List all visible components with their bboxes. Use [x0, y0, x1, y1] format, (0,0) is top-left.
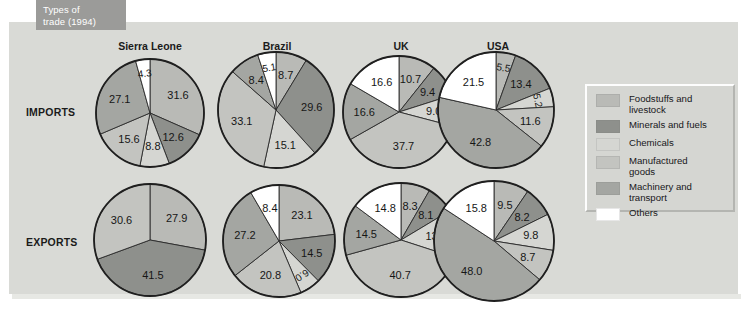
pie-slice-value-label: 8.8: [145, 140, 160, 152]
legend-swatch-foodstuffs: [596, 94, 620, 107]
pie-slice-value-label: 27.1: [109, 93, 130, 105]
legend-label-others: Others: [629, 207, 658, 218]
pie-slice-value-label: 21.5: [463, 76, 484, 88]
legend-label-manufactured: Manufactured goods: [629, 155, 688, 177]
pie-slice-value-label: 33.1: [231, 115, 252, 127]
legend-swatch-minerals: [596, 120, 620, 133]
legend-swatch-chemicals: [596, 138, 620, 151]
pie-slice-value-label: 8.4: [262, 202, 277, 214]
pie-slice-value-label: 31.6: [167, 89, 188, 101]
legend-label-machinery: Machinery and transport: [629, 181, 692, 203]
pie-slice-value-label: 27.2: [234, 229, 255, 241]
pie-slice-value-label: 4.3: [137, 67, 153, 80]
pie-slice-value-label: 14.8: [374, 202, 395, 214]
legend-label-foodstuffs: Foodstuffs and livestock: [629, 93, 692, 115]
pie-slice-value-label: 41.5: [142, 269, 163, 281]
pie-slice-value-label: 8.4: [249, 74, 264, 86]
pie-slice-value-label: 20.8: [260, 269, 281, 281]
row-label-imports: IMPORTS: [26, 106, 75, 118]
legend-swatch-manufactured: [596, 156, 620, 169]
pie-slice-value-label: 11.6: [520, 115, 541, 127]
pie-chart-exports-usa: 9.58.29.88.748.015.8: [408, 155, 580, 317]
pie-slice-value-label: 48.0: [461, 265, 482, 277]
figure-title-line2: trade (1994): [43, 16, 120, 28]
legend-swatch-machinery: [596, 182, 620, 195]
legend-item-others: Others: [596, 207, 729, 221]
pie-slice-value-label: 37.7: [393, 140, 414, 152]
figure-title-line1: Types of: [43, 4, 80, 15]
pie-slice-value-label: 30.6: [111, 214, 132, 226]
legend-item-foodstuffs: Foodstuffs and livestock: [596, 93, 729, 115]
pie-slice-value-label: 9.8: [523, 229, 538, 241]
pie-slice-value-label: 16.6: [371, 76, 392, 88]
pie-slice-value-label: 8.7: [520, 251, 535, 263]
pie-slice-value-label: 12.6: [162, 131, 183, 143]
legend-label-chemicals: Chemicals: [629, 137, 674, 148]
pie-slice-value-label: 8.7: [278, 69, 293, 81]
legend-item-minerals: Minerals and fuels: [596, 119, 729, 133]
pie-slice-value-label: 13.4: [510, 78, 531, 90]
pie-slice-value-label: 15.8: [466, 202, 487, 214]
types-of-trade-figure: Types of trade (1994) Sierra Leone Brazi…: [0, 0, 746, 317]
pie-slice-value-label: 16.6: [354, 106, 375, 118]
figure-title-tab: Types of trade (1994): [36, 0, 126, 30]
pie-slice-value-label: 42.8: [470, 136, 491, 148]
pie-slice-value-label: 5.1: [261, 61, 277, 74]
legend-label-minerals: Minerals and fuels: [629, 119, 707, 130]
legend-item-machinery: Machinery and transport: [596, 181, 729, 203]
legend-panel: Foodstuffs and livestockMinerals and fue…: [585, 84, 735, 212]
legend-item-chemicals: Chemicals: [596, 137, 729, 151]
legend-swatch-others: [596, 208, 620, 221]
pie-slice-value-label: 8.2: [514, 211, 529, 223]
pie-slice-value-label: 27.9: [166, 212, 187, 224]
pie-slice-value-label: 14.5: [356, 228, 377, 240]
pie-slice-value-label: 15.6: [118, 133, 139, 145]
legend-item-manufactured: Manufactured goods: [596, 155, 729, 177]
pie-slice-value-label: 9.5: [497, 199, 512, 211]
pie-slice-value-label: 23.1: [291, 209, 312, 221]
pie-slice-value-label: 15.1: [275, 139, 296, 151]
